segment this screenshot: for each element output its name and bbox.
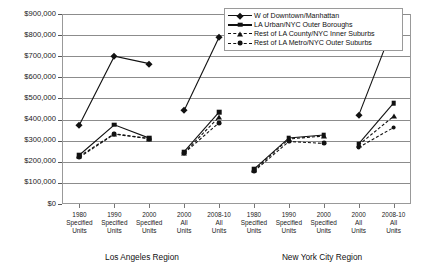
data-point-marker [356, 145, 361, 150]
legend-item[interactable]: Rest of LA Metro/NYC Outer Suburbs [228, 39, 399, 48]
series-line [184, 117, 219, 153]
legend-marker-circle-icon [228, 39, 252, 48]
data-point-marker [391, 114, 397, 119]
legend-marker-triangle-icon [228, 29, 252, 38]
series-line [184, 123, 219, 153]
legend-item[interactable]: Rest of LA County/NYC Inner Suburbs [228, 29, 399, 38]
legend-label: Rest of LA Metro/NYC Outer Suburbs [252, 39, 372, 47]
data-point-marker [112, 132, 117, 137]
data-point-marker [391, 101, 396, 106]
line-chart: $900,000$800,000$700,000$600,000$500,000… [0, 0, 429, 274]
data-point-marker [321, 134, 327, 139]
legend-marker-diamond-icon [228, 11, 252, 20]
series-line [359, 103, 394, 144]
data-point-marker [286, 139, 291, 144]
data-point-marker [147, 136, 152, 141]
legend: W of Downtown/ManhattanLA Urban/NYC Oute… [224, 8, 403, 51]
series-line [184, 112, 219, 151]
data-point-marker [321, 141, 326, 146]
data-point-marker [77, 155, 82, 160]
data-point-marker [217, 120, 222, 125]
legend-label: W of Downtown/Manhattan [252, 12, 339, 20]
data-point-marker [252, 169, 257, 174]
data-point-marker [391, 125, 396, 130]
legend-item[interactable]: W of Downtown/Manhattan [228, 11, 399, 20]
data-point-marker [182, 151, 187, 156]
legend-marker-square-icon [228, 20, 252, 29]
data-point-marker [216, 115, 222, 120]
group-label-los-angeles: Los Angeles Region [62, 252, 222, 262]
data-point-marker [112, 123, 117, 128]
series-line [79, 56, 149, 125]
legend-item[interactable]: LA Urban/NYC Outer Boroughs [228, 20, 399, 29]
group-label-new-york: New York City Region [242, 252, 402, 262]
series-line [359, 116, 394, 145]
series-line [184, 37, 219, 110]
legend-label: Rest of LA County/NYC Inner Suburbs [252, 30, 375, 38]
legend-label: LA Urban/NYC Outer Boroughs [252, 21, 353, 29]
series-line [254, 142, 324, 172]
